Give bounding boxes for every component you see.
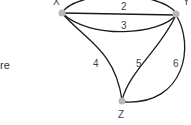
edge-label-6: 6 (173, 59, 179, 69)
node-label-z: Z (118, 110, 124, 120)
edge-label-5: 5 (136, 59, 142, 69)
edge-x-z-4 (62, 13, 122, 100)
node-z (119, 98, 126, 105)
edge-label-4: 4 (93, 59, 99, 69)
node-label-x: X (53, 0, 60, 7)
node-x (59, 10, 66, 17)
edge-x-y-3 (62, 13, 176, 32)
edge-x-y-2 (62, 13, 176, 15)
side-text-fragment: re (0, 60, 10, 71)
node-label-y: Y (183, 0, 190, 7)
edge-label-2: 2 (121, 2, 127, 12)
node-y (173, 11, 180, 18)
edge-label-3: 3 (121, 21, 127, 31)
edge-y-z-5 (122, 15, 176, 100)
edge-x-y-1 (62, 0, 176, 13)
